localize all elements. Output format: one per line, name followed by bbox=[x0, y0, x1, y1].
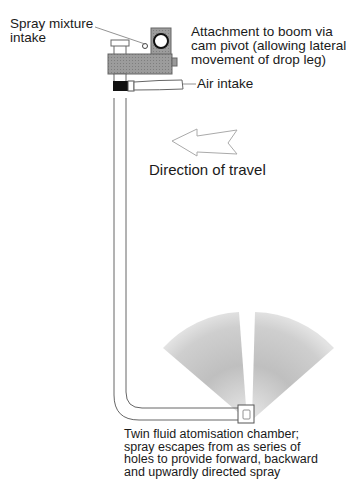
label-direction-of-travel: Direction of travel bbox=[149, 163, 266, 177]
collar bbox=[113, 81, 128, 91]
label-atomisation-chamber: Twin fluid atomisation chamber; spray es… bbox=[124, 428, 318, 478]
direction-arrow-icon bbox=[172, 129, 237, 156]
pivot-hole bbox=[154, 34, 168, 48]
valve-body bbox=[108, 54, 172, 74]
label-spray-mixture-intake: Spray mixture intake bbox=[10, 17, 93, 45]
spray-fan-forward bbox=[252, 312, 334, 420]
label-attachment: Attachment to boom via cam pivot (allowi… bbox=[191, 25, 346, 67]
air-hose bbox=[134, 80, 183, 90]
label-air-intake: Air intake bbox=[197, 77, 253, 91]
spray-fan-backward bbox=[163, 312, 247, 420]
